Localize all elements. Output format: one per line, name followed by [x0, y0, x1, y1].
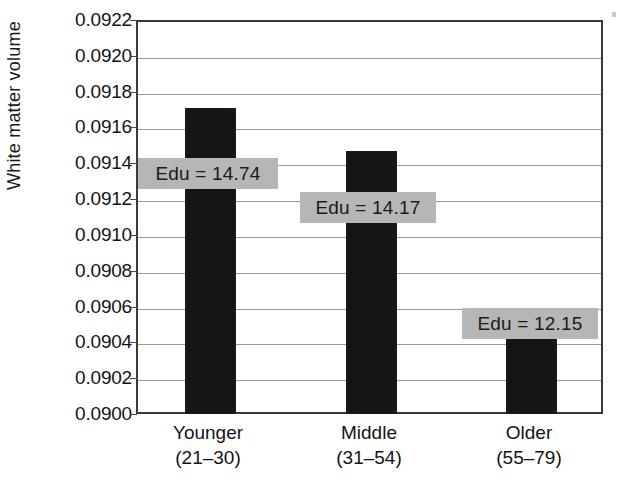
- edu-annotation-middle: Edu = 14.17: [300, 192, 436, 223]
- y-tick-label: 0.0920: [46, 45, 132, 67]
- y-tick-label: 0.0904: [46, 331, 132, 353]
- x-tick-label-name: Older: [506, 422, 552, 443]
- y-tick-label: 0.0906: [46, 296, 132, 318]
- x-tick-label-range: (31–54): [336, 445, 402, 470]
- y-tick-mark: [130, 199, 137, 200]
- bar-chart-figure: White matter volume 0.09220.09200.09180.…: [0, 0, 621, 498]
- x-tick-label-range: (21–30): [173, 445, 243, 470]
- x-tick-label-middle: Middle(31–54): [336, 420, 402, 470]
- y-tick-mark: [130, 307, 137, 308]
- y-tick-label: 0.0918: [46, 81, 132, 103]
- y-tick-label: 0.0902: [46, 367, 132, 389]
- y-axis-tick-labels: 0.09220.09200.09180.09160.09140.09120.09…: [46, 0, 132, 498]
- x-tick-label-range: (55–79): [496, 445, 562, 470]
- y-tick-mark: [130, 163, 137, 164]
- y-tick-mark: [130, 271, 137, 272]
- y-tick-mark: [130, 127, 137, 128]
- y-tick-label: 0.0910: [46, 224, 132, 246]
- edu-annotation-younger: Edu = 14.74: [138, 158, 278, 189]
- bar-younger: [185, 108, 236, 414]
- x-tick-label-name: Younger: [173, 422, 243, 443]
- y-tick-label: 0.0914: [46, 152, 132, 174]
- x-tick-label-older: Older(55–79): [496, 420, 562, 470]
- y-tick-label: 0.0916: [46, 116, 132, 138]
- gridline: [138, 58, 601, 59]
- y-tick-mark: [130, 20, 137, 21]
- y-tick-mark: [130, 235, 137, 236]
- y-tick-mark: [130, 342, 137, 343]
- y-tick-mark: [130, 378, 137, 379]
- y-tick-label: 0.0900: [46, 403, 132, 425]
- x-tick-label-name: Middle: [341, 422, 397, 443]
- y-tick-label: 0.0922: [46, 9, 132, 31]
- x-tick-label-younger: Younger(21–30): [173, 420, 243, 470]
- gridline: [138, 94, 601, 95]
- y-tick-mark: [130, 56, 137, 57]
- y-tick-label: 0.0908: [46, 260, 132, 282]
- y-tick-mark: [130, 414, 137, 415]
- edu-annotation-older: Edu = 12.15: [462, 308, 598, 339]
- y-axis-title: White matter volume: [4, 0, 25, 190]
- scan-artifact: [612, 12, 616, 17]
- y-tick-mark: [130, 92, 137, 93]
- bar-middle: [346, 151, 397, 414]
- y-tick-label: 0.0912: [46, 188, 132, 210]
